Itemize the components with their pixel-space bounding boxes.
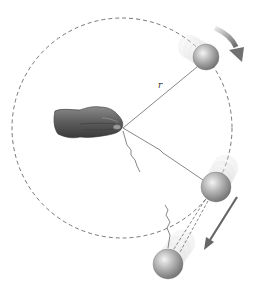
circular-motion-diagram [0,0,259,296]
string-to-top-ball [123,67,197,128]
broken-string-piece-hand [123,131,140,172]
escaping-ball [153,249,183,279]
hand-icon [54,107,123,138]
middle-ball [201,172,231,202]
top-ball [193,44,219,70]
rotation-direction-arrow-icon [215,28,244,62]
string-to-middle-ball [123,128,203,180]
tangent-velocity-arrow-icon [204,197,237,250]
radius-label: r [158,80,162,90]
